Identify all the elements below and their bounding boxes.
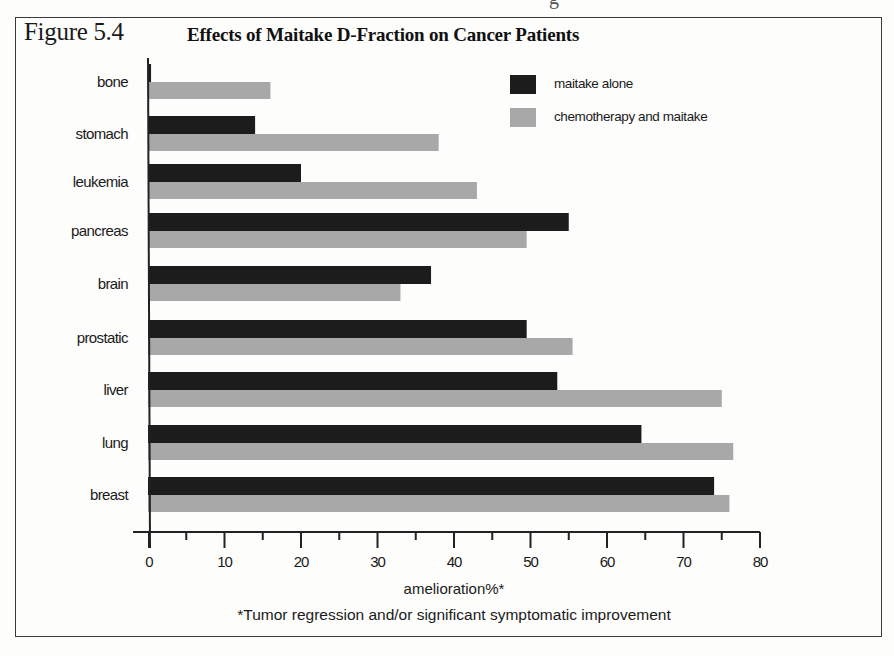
legend-label-chemo-and-maitake: chemotherapy and maitake	[554, 109, 707, 124]
x-axis-label: amelioration%*	[404, 580, 505, 597]
category-label-breast: breast	[90, 486, 130, 503]
category-label-leukemia: leukemia	[73, 173, 129, 190]
category-label-brain: brain	[98, 275, 129, 292]
bar-chemo-and-maitake-liver	[148, 390, 722, 407]
category-label-liver: liver	[103, 381, 128, 398]
x-tick-label: 10	[217, 553, 232, 570]
bar-maitake-alone-pancreas	[148, 213, 569, 231]
bar-chart: bonestomachleukemiapancreasbrainprostati…	[0, 0, 894, 656]
category-label-lung: lung	[102, 434, 128, 451]
x-tick-label: 0	[145, 553, 153, 570]
legend-swatch-chemo-and-maitake	[510, 108, 536, 127]
bars-layer	[148, 64, 733, 512]
category-label-pancreas: pancreas	[71, 222, 128, 239]
category-label-stomach: stomach	[76, 125, 129, 142]
bar-chemo-and-maitake-prostatic	[148, 338, 573, 355]
bar-maitake-alone-stomach	[148, 116, 255, 134]
figure-page: g Figure 5.4 Effects of Maitake D-Fracti…	[0, 0, 894, 656]
legend: maitake alonechemotherapy and maitake	[510, 75, 707, 127]
x-tick-label: 30	[370, 553, 385, 570]
bar-chemo-and-maitake-brain	[148, 284, 400, 301]
bar-chemo-and-maitake-bone	[148, 82, 270, 99]
bar-chemo-and-maitake-leukemia	[148, 182, 477, 199]
category-labels: bonestomachleukemiapancreasbrainprostati…	[71, 73, 129, 503]
x-tick-label: 50	[523, 553, 538, 570]
x-tick-label: 20	[294, 553, 309, 570]
category-label-bone: bone	[97, 73, 128, 90]
legend-label-maitake-alone: maitake alone	[554, 76, 633, 91]
bar-chemo-and-maitake-lung	[148, 443, 733, 460]
bar-chemo-and-maitake-pancreas	[148, 231, 527, 248]
footnote: *Tumor regression and/or significant sym…	[237, 606, 671, 623]
bar-maitake-alone-leukemia	[148, 164, 301, 182]
x-tick-label: 60	[600, 553, 615, 570]
x-tick-label: 40	[447, 553, 462, 570]
bar-chemo-and-maitake-breast	[148, 495, 729, 512]
bar-chemo-and-maitake-stomach	[148, 134, 439, 151]
bar-maitake-alone-prostatic	[148, 320, 527, 338]
legend-swatch-maitake-alone	[510, 75, 536, 94]
category-label-prostatic: prostatic	[77, 329, 129, 346]
x-tick-label: 80	[753, 553, 768, 570]
bar-maitake-alone-lung	[148, 425, 641, 443]
bar-maitake-alone-breast	[148, 477, 714, 495]
x-tick-label: 70	[676, 553, 691, 570]
bar-maitake-alone-brain	[148, 266, 431, 284]
bar-maitake-alone-liver	[148, 372, 557, 390]
